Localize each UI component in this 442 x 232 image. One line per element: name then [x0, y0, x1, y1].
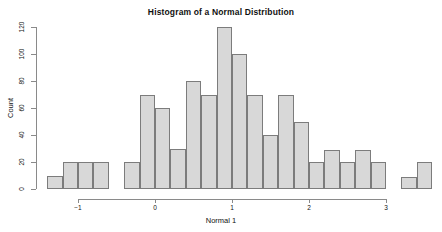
x-axis-tick-label: 0 — [153, 205, 157, 212]
histogram-bar — [140, 95, 155, 190]
histogram-bar — [247, 95, 262, 190]
y-axis-tick — [31, 189, 36, 190]
histogram-bar — [155, 108, 170, 189]
y-axis-tick — [31, 108, 36, 109]
histogram-bar — [263, 135, 278, 189]
histogram-bar — [340, 162, 355, 189]
y-axis-tick — [31, 81, 36, 82]
y-axis-title: Count — [6, 98, 15, 118]
x-axis-tick-label: 1 — [230, 205, 234, 212]
histogram-bar — [278, 95, 293, 190]
x-axis-tick-label: −1 — [74, 205, 81, 212]
x-axis-tick — [309, 199, 310, 203]
y-axis-tick-label: 60 — [14, 108, 29, 109]
histogram-bar — [78, 162, 93, 189]
histogram-bar — [417, 162, 432, 189]
histogram-bar — [294, 122, 309, 190]
histogram-bar — [309, 162, 324, 189]
x-axis-tick — [386, 199, 387, 203]
y-axis-tick — [31, 135, 36, 136]
histogram-bar — [217, 27, 232, 189]
histogram-bars — [0, 0, 442, 232]
x-axis-tick-label: 2 — [307, 205, 311, 212]
y-axis-tick-label: 120 — [14, 27, 29, 28]
histogram-bar — [47, 176, 62, 190]
x-axis-tick — [232, 199, 233, 203]
histogram-plot: Histogram of a Normal Distribution 02040… — [0, 0, 442, 232]
x-axis-tick — [78, 199, 79, 203]
histogram-bar — [124, 162, 139, 189]
x-axis-title: Normal 1 — [0, 216, 442, 225]
histogram-bar — [371, 162, 386, 189]
y-axis-line — [36, 27, 37, 189]
histogram-bar — [186, 81, 201, 189]
histogram-bar — [63, 162, 78, 189]
histogram-bar — [93, 162, 108, 189]
y-axis-tick-label: 0 — [14, 189, 29, 190]
y-axis-tick-label: 80 — [14, 81, 29, 82]
histogram-bar — [170, 149, 185, 190]
y-axis-tick-label: 40 — [14, 135, 29, 136]
y-axis-tick — [31, 27, 36, 28]
y-axis-tick-label: 20 — [14, 162, 29, 163]
histogram-bar — [324, 150, 339, 189]
histogram-bar — [355, 150, 370, 189]
histogram-bar — [401, 177, 416, 189]
x-axis-tick-label: 3 — [384, 205, 388, 212]
y-axis-tick — [31, 162, 36, 163]
plot-area: 020406080100120 Count −10123 Normal 1 — [0, 0, 442, 232]
histogram-bar — [232, 54, 247, 189]
x-axis-tick — [155, 199, 156, 203]
histogram-bar — [201, 95, 216, 190]
y-axis-tick — [31, 54, 36, 55]
y-axis-tick-label: 100 — [14, 54, 29, 55]
